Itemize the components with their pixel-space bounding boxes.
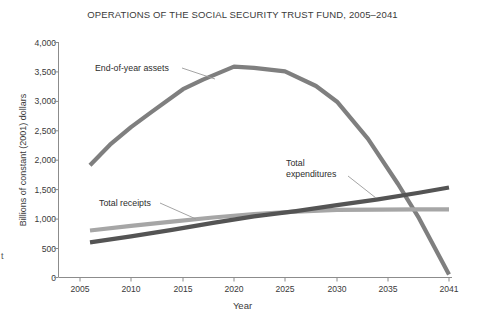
y-axis-ticks <box>54 43 59 278</box>
series-line-end-of-year-assets <box>90 67 449 275</box>
series-line-total-expenditures <box>90 188 449 243</box>
chart-figure: OPERATIONS OF THE SOCIAL SECURITY TRUST … <box>0 0 485 322</box>
x-axis-ticks <box>80 278 449 282</box>
leader-line-assets <box>182 68 215 79</box>
leader-line-expenditures <box>348 176 376 198</box>
leader-line-receipts <box>160 203 196 219</box>
plot-area <box>0 0 485 322</box>
